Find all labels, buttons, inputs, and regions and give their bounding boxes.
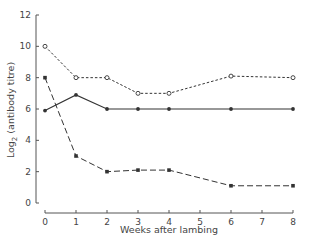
y-tick-label: 12 <box>20 10 31 20</box>
data-point <box>167 91 171 95</box>
data-point <box>74 93 78 97</box>
y-tick-label: 0 <box>25 198 31 208</box>
data-point <box>167 168 171 172</box>
data-point <box>136 168 140 172</box>
data-point <box>43 109 47 113</box>
data-point <box>291 184 295 188</box>
data-point <box>43 76 47 80</box>
x-tick-label: 6 <box>228 217 234 227</box>
y-tick-label: 4 <box>25 135 31 145</box>
y-axis-title: Log2 (antibody titre) <box>5 62 19 158</box>
line-chart: 024681012 012345678 Weeks after lambing … <box>0 0 309 245</box>
data-point <box>105 170 109 174</box>
series-filled-circles-solid <box>43 93 295 112</box>
series-layer <box>43 44 295 187</box>
data-point <box>74 154 78 158</box>
data-point <box>291 76 295 80</box>
data-point <box>136 107 140 111</box>
y-tick-label: 2 <box>25 167 31 177</box>
x-tick-label: 8 <box>290 217 296 227</box>
data-point <box>229 107 233 111</box>
x-tick-label: 0 <box>42 217 48 227</box>
y-tick-label: 8 <box>25 73 31 83</box>
x-tick-label: 7 <box>259 217 265 227</box>
x-tick-label: 1 <box>73 217 79 227</box>
x-tick-label: 2 <box>104 217 110 227</box>
y-tick-label: 10 <box>20 41 32 51</box>
y-tick-label: 6 <box>25 104 31 114</box>
data-point <box>291 107 295 111</box>
data-point <box>229 74 233 78</box>
data-point <box>105 107 109 111</box>
series-open-circles-dotted <box>43 44 295 95</box>
data-point <box>43 44 47 48</box>
data-point <box>105 76 109 80</box>
y-axis: 024681012 <box>20 10 39 208</box>
data-point <box>229 184 233 188</box>
x-axis-title: Weeks after lambing <box>120 224 218 235</box>
data-point <box>74 76 78 80</box>
data-point <box>136 91 140 95</box>
data-point <box>167 107 171 111</box>
